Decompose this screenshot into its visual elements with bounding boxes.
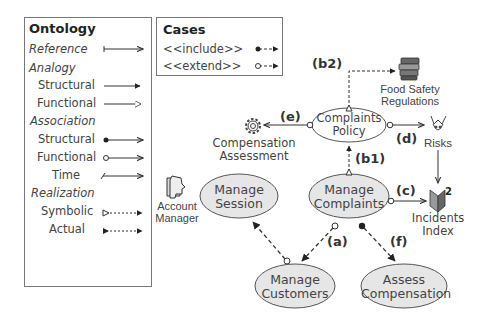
gear-icon bbox=[246, 119, 260, 133]
food-safety-line2: Regulations bbox=[370, 95, 450, 107]
edge-label-c: (c) bbox=[396, 183, 416, 198]
manage-customers-line2: Customers bbox=[255, 287, 335, 301]
complaints-policy-label: Complaints Policy bbox=[312, 112, 386, 138]
manage-customers-line1: Manage bbox=[255, 273, 335, 287]
manage-complaints-line2: Complaints bbox=[309, 197, 389, 211]
assess-compensation-line1: Assess bbox=[361, 273, 447, 287]
complaints-policy-line2: Policy bbox=[312, 125, 386, 138]
svg-text:2: 2 bbox=[445, 186, 452, 197]
food-safety-label: Food Safety Regulations bbox=[370, 83, 450, 107]
incidents-index-label: Incidents Index bbox=[408, 212, 468, 238]
edge-label-a: (a) bbox=[327, 234, 348, 249]
edge-label-f: (f) bbox=[390, 234, 408, 249]
edge-b1 bbox=[346, 146, 352, 175]
edge-label-d: (d) bbox=[396, 131, 417, 146]
edge-c bbox=[388, 198, 426, 204]
account-manager-label: Account Manager bbox=[151, 200, 203, 224]
books-icon bbox=[399, 58, 419, 80]
assess-compensation-line2: Compensation bbox=[361, 287, 447, 301]
account-manager-line1: Account bbox=[151, 200, 203, 212]
assess-compensation-label: Assess Compensation bbox=[361, 273, 447, 301]
food-safety-line1: Food Safety bbox=[370, 83, 450, 95]
manage-session-label: Manage Session bbox=[200, 183, 278, 211]
edge-label-e: (e) bbox=[280, 109, 301, 124]
edge-customers-session bbox=[253, 222, 290, 264]
compensation-assessment-line2: Assessment bbox=[211, 150, 297, 163]
manage-session-line2: Session bbox=[200, 197, 278, 211]
risks-line1: Risks bbox=[420, 137, 456, 149]
risk-icon bbox=[431, 116, 446, 130]
manage-complaints-line1: Manage bbox=[309, 183, 389, 197]
edge-label-b2: (b2) bbox=[312, 56, 342, 71]
account-manager-line2: Manager bbox=[151, 212, 203, 224]
manage-customers-label: Manage Customers bbox=[255, 273, 335, 301]
edge-d bbox=[387, 122, 424, 128]
manage-session-line1: Manage bbox=[200, 183, 278, 197]
incidents-index-line2: Index bbox=[408, 225, 468, 238]
risks-label: Risks bbox=[420, 137, 456, 149]
edge-label-b1: (b1) bbox=[355, 151, 385, 166]
index-book-icon: 2 bbox=[430, 186, 452, 212]
actor-head-icon bbox=[167, 176, 185, 198]
manage-complaints-label: Manage Complaints bbox=[309, 183, 389, 211]
compensation-assessment-label: Compensation Assessment bbox=[211, 137, 297, 163]
